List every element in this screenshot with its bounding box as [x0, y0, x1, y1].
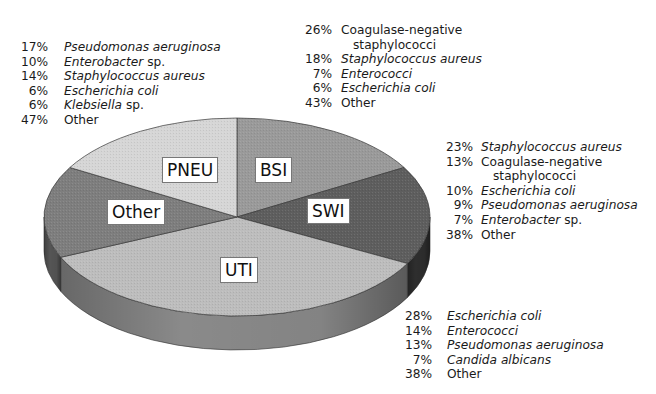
legend-row: 13%Coagulase-negative [430, 155, 638, 170]
legend-percent: 13% [430, 155, 473, 170]
legend-percent: 26% [284, 23, 332, 38]
legend-row-continued: staphylococci [284, 38, 482, 53]
legend-row: 6%Escherichia coli [0, 84, 221, 99]
legend-row: 10%Enterobacter sp. [0, 55, 221, 70]
legend-pathogen: Coagulase-negative [341, 23, 462, 38]
legend-bsi: 26%Coagulase-negativestaphylococci18%Sta… [284, 23, 482, 111]
legend-percent: 18% [284, 52, 332, 67]
legend-pathogen: Other [341, 96, 376, 111]
legend-pneu: 17%Pseudomonas aeruginosa10%Enterobacter… [0, 40, 221, 128]
legend-row: 38%Other [392, 367, 604, 382]
legend-row: 6%Escherichia coli [284, 81, 482, 96]
legend-percent: 6% [284, 81, 332, 96]
legend-pathogen: Escherichia coli [481, 184, 575, 199]
legend-row: 10%Escherichia coli [430, 184, 638, 199]
legend-percent: 38% [392, 367, 432, 382]
legend-pathogen: Pseudomonas aeruginosa [481, 198, 638, 213]
legend-row-continued: staphylococci [430, 169, 638, 184]
legend-row: 17%Pseudomonas aeruginosa [0, 40, 221, 55]
legend-pathogen: Coagulase-negative [481, 155, 602, 170]
slice-label-swi: SWI [307, 198, 350, 224]
legend-pathogen: staphylococci [284, 38, 436, 53]
legend-percent: 14% [392, 324, 432, 339]
legend-row: 28%Escherichia coli [392, 309, 604, 324]
legend-percent: 38% [430, 228, 473, 243]
legend-percent: 10% [0, 55, 48, 70]
slice-label-bsi: BSI [255, 157, 292, 183]
slice-label-pneu: PNEU [162, 157, 218, 183]
legend-percent: 47% [0, 113, 48, 128]
legend-pathogen: Escherichia coli [64, 84, 158, 99]
legend-pathogen: Staphylococcus aureus [341, 52, 482, 67]
legend-row: 18%Staphylococcus aureus [284, 52, 482, 67]
legend-pathogen: Klebsiella sp. [64, 98, 144, 113]
legend-pathogen: Staphylococcus aureus [481, 140, 622, 155]
legend-percent: 43% [284, 96, 332, 111]
legend-swi: 23%Staphylococcus aureus13%Coagulase-neg… [430, 140, 638, 242]
legend-pathogen: Escherichia coli [341, 81, 435, 96]
legend-percent: 6% [0, 98, 48, 113]
legend-percent: 28% [392, 309, 432, 324]
legend-pathogen: Candida albicans [447, 353, 551, 368]
legend-pathogen: Escherichia coli [447, 309, 541, 324]
legend-row: 7%Enterococci [284, 67, 482, 82]
legend-percent: 17% [0, 40, 48, 55]
legend-row: 47%Other [0, 113, 221, 128]
slice-label-other: Other [107, 199, 165, 225]
legend-row: 9%Pseudomonas aeruginosa [430, 198, 638, 213]
legend-percent: 7% [392, 353, 432, 368]
legend-percent: 23% [430, 140, 473, 155]
legend-percent: 9% [430, 198, 473, 213]
legend-row: 6%Klebsiella sp. [0, 98, 221, 113]
legend-row: 14%Enterococci [392, 324, 604, 339]
legend-pathogen: Pseudomonas aeruginosa [447, 338, 604, 353]
legend-row: 7%Candida albicans [392, 353, 604, 368]
legend-pathogen: Enterococci [341, 67, 412, 82]
legend-pathogen: staphylococci [430, 169, 576, 184]
legend-uti: 28%Escherichia coli14%Enterococci13%Pseu… [392, 309, 604, 382]
legend-pathogen: Other [481, 228, 516, 243]
legend-pathogen: Other [64, 113, 99, 128]
legend-percent: 7% [284, 67, 332, 82]
legend-row: 38%Other [430, 228, 638, 243]
legend-percent: 6% [0, 84, 48, 99]
legend-percent: 10% [430, 184, 473, 199]
legend-row: 14%Staphylococcus aureus [0, 69, 221, 84]
legend-row: 26%Coagulase-negative [284, 23, 482, 38]
legend-row: 23%Staphylococcus aureus [430, 140, 638, 155]
legend-pathogen: Staphylococcus aureus [64, 69, 205, 84]
legend-pathogen: Other [447, 367, 482, 382]
legend-row: 43%Other [284, 96, 482, 111]
legend-row: 7%Enterobacter sp. [430, 213, 638, 228]
legend-percent: 14% [0, 69, 48, 84]
pie-top-slices [44, 118, 430, 316]
legend-pathogen: Enterococci [447, 324, 518, 339]
slice-label-uti: UTI [220, 257, 258, 283]
legend-pathogen: Pseudomonas aeruginosa [64, 40, 221, 55]
legend-percent: 7% [430, 213, 473, 228]
legend-pathogen: Enterobacter sp. [481, 213, 582, 228]
legend-pathogen: Enterobacter sp. [64, 55, 165, 70]
legend-row: 13%Pseudomonas aeruginosa [392, 338, 604, 353]
legend-percent: 13% [392, 338, 432, 353]
